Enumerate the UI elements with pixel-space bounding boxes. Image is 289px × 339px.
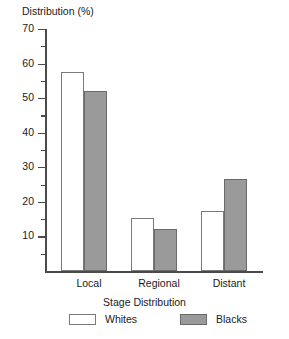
y-tick-label-70: 70	[8, 22, 34, 34]
y-tick-label-30: 30	[8, 160, 34, 172]
x-axis-title: Stage Distribution	[0, 296, 289, 308]
legend-label-whites: Whites	[105, 313, 137, 325]
y-tick-label-60: 60	[8, 57, 34, 69]
y-tick-label-10: 10	[8, 229, 34, 241]
bar-regional-whites	[131, 218, 154, 271]
bar-local-whites	[61, 72, 84, 271]
y-axis-title: Distribution (%)	[22, 5, 94, 17]
bar-chart: Distribution (%) 70 60 50 40 30 20 10 Lo…	[0, 0, 289, 339]
y-tick-70	[38, 29, 45, 30]
legend-item-whites: Whites	[69, 313, 137, 325]
bar-distant-whites	[201, 211, 224, 272]
y-tick-30	[38, 167, 45, 168]
legend: Whites Blacks	[0, 313, 289, 333]
x-tick-label-distant: Distant	[199, 277, 259, 289]
y-tick-10	[38, 236, 45, 237]
y-tick-50	[38, 98, 45, 99]
bar-distant-blacks	[224, 179, 247, 271]
x-axis-line	[45, 271, 263, 273]
y-tick-label-40: 40	[8, 126, 34, 138]
x-tick-label-local: Local	[59, 277, 119, 289]
bar-local-blacks	[84, 91, 107, 271]
legend-item-blacks: Blacks	[180, 313, 247, 325]
y-tick-label-20: 20	[8, 195, 34, 207]
y-tick-60	[38, 64, 45, 65]
plot-area	[45, 29, 263, 271]
legend-label-blacks: Blacks	[216, 313, 247, 325]
y-tick-label-50: 50	[8, 91, 34, 103]
bar-regional-blacks	[154, 229, 177, 272]
legend-swatch-blacks	[180, 314, 207, 325]
y-tick-20	[38, 202, 45, 203]
legend-swatch-whites	[69, 314, 96, 325]
x-tick-label-regional: Regional	[129, 277, 189, 289]
y-tick-40	[38, 133, 45, 134]
